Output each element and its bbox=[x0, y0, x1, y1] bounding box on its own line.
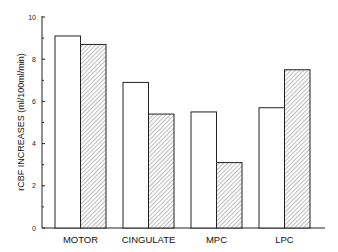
y-tick-label: 4 bbox=[32, 140, 36, 147]
y-tick-label: 10 bbox=[28, 14, 36, 21]
bar-lpc-hatched bbox=[285, 70, 311, 228]
bar-group-cingulate: CINGULATE bbox=[122, 82, 176, 245]
bar-cingulate-hatched bbox=[149, 114, 175, 228]
bar-lpc-open bbox=[259, 108, 285, 228]
x-category-label: MOTOR bbox=[63, 234, 98, 245]
y-tick-label: 8 bbox=[32, 56, 36, 63]
bar-group-lpc: LPC bbox=[259, 70, 310, 245]
bar-group-mpc: MPC bbox=[191, 112, 242, 245]
y-axis-label: rCBF INCREASES (ml/100ml/min) bbox=[16, 53, 26, 191]
y-tick-label: 6 bbox=[32, 98, 36, 105]
y-tick-label: 2 bbox=[32, 182, 36, 189]
bar-cingulate-open bbox=[123, 82, 149, 228]
bar-motor-open bbox=[55, 36, 81, 228]
y-tick-label: 0 bbox=[32, 225, 36, 232]
bar-chart: 0246810 MOTORCINGULATEMPCLPC rCBF INCREA… bbox=[0, 0, 338, 252]
bar-mpc-hatched bbox=[217, 163, 243, 228]
bar-motor-hatched bbox=[81, 44, 107, 228]
x-category-label: CINGULATE bbox=[122, 234, 176, 245]
bars: MOTORCINGULATEMPCLPC bbox=[55, 36, 310, 245]
bar-mpc-open bbox=[191, 112, 217, 228]
x-category-label: MPC bbox=[206, 234, 227, 245]
bar-group-motor: MOTOR bbox=[55, 36, 106, 245]
x-category-label: LPC bbox=[275, 234, 294, 245]
